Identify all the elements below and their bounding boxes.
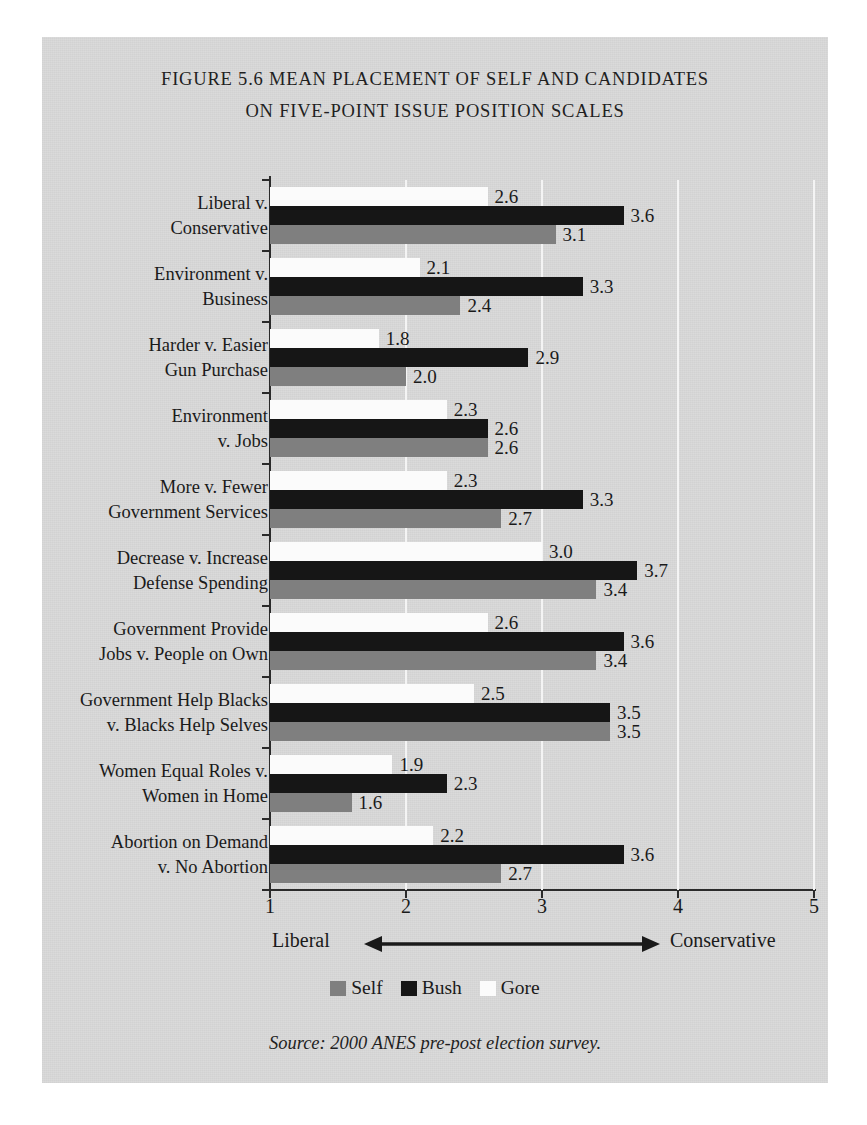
figure-source-note: Source: 2000 ANES pre-post election surv… <box>42 1033 828 1054</box>
bar-gore <box>270 187 488 206</box>
bar-group: 2.13.32.4 <box>270 251 814 322</box>
bar-group: 3.03.73.4 <box>270 535 814 606</box>
axis-anchor-conservative: Conservative <box>670 929 776 952</box>
scale-direction-row: Liberal Conservative <box>172 927 852 961</box>
bar-group: 2.63.63.4 <box>270 606 814 677</box>
bar-gore <box>270 684 474 703</box>
bar-row-gore: 2.3 <box>270 400 814 419</box>
category-label-line: Environment v. <box>154 262 268 287</box>
bar-value-label: 1.8 <box>379 328 410 350</box>
bar-self <box>270 225 556 244</box>
bar-value-label: 3.1 <box>556 224 587 246</box>
bar-row-gore: 2.6 <box>270 613 814 632</box>
bar-value-label: 3.3 <box>583 276 614 298</box>
bar-row-gore: 2.6 <box>270 187 814 206</box>
category-label: Environmentv. Jobs <box>171 404 268 454</box>
bar-row-bush: 3.3 <box>270 277 814 296</box>
bar-value-label: 2.9 <box>528 347 559 369</box>
category-label: Liberal v.Conservative <box>170 191 268 241</box>
bar-row-bush: 3.6 <box>270 632 814 651</box>
bar-group: 2.33.32.7 <box>270 464 814 535</box>
bar-gore <box>270 542 542 561</box>
bar-row-bush: 3.7 <box>270 561 814 580</box>
bar-row-gore: 1.8 <box>270 329 814 348</box>
bar-value-label: 2.4 <box>460 295 491 317</box>
bar-group: 1.92.31.6 <box>270 748 814 819</box>
bar-row-bush: 2.9 <box>270 348 814 367</box>
bar-gore <box>270 400 447 419</box>
bar-value-label: 2.6 <box>488 612 519 634</box>
category-label-line: Defense Spending <box>117 571 268 596</box>
bar-row-self: 3.5 <box>270 722 814 741</box>
bar-value-label: 2.6 <box>488 437 519 459</box>
bar-group: 1.82.92.0 <box>270 322 814 393</box>
bar-self <box>270 367 406 386</box>
x-axis-label-4: 4 <box>673 895 683 918</box>
bar-value-label: 1.9 <box>392 754 423 776</box>
bar-self <box>270 722 610 741</box>
x-axis-label-5: 5 <box>809 895 819 918</box>
bar-row-self: 3.4 <box>270 651 814 670</box>
bar-self <box>270 793 352 812</box>
bar-self <box>270 580 596 599</box>
bar-value-label: 3.6 <box>624 844 655 866</box>
bar-row-self: 2.7 <box>270 509 814 528</box>
bar-row-self: 2.7 <box>270 864 814 883</box>
figure-title-line-2: ON FIVE-POINT ISSUE POSITION SCALES <box>42 95 828 127</box>
legend-item-bush[interactable]: Bush <box>401 977 462 999</box>
bar-self <box>270 438 488 457</box>
bar-gore <box>270 613 488 632</box>
bar-bush <box>270 632 624 651</box>
bar-group: 2.63.63.1 <box>270 180 814 251</box>
category-label-line: Government Help Blacks <box>80 688 268 713</box>
bar-row-gore: 2.3 <box>270 471 814 490</box>
bar-row-self: 1.6 <box>270 793 814 812</box>
bar-group: 2.32.62.6 <box>270 393 814 464</box>
category-label-line: Harder v. Easier <box>148 333 268 358</box>
legend-label-self: Self <box>351 977 382 998</box>
bar-row-bush: 3.6 <box>270 845 814 864</box>
bar-value-label: 2.2 <box>433 825 464 847</box>
x-axis-tick-labels: 12345 <box>270 895 814 925</box>
category-label: Abortion on Demandv. No Abortion <box>111 830 268 880</box>
bar-value-label: 2.7 <box>501 508 532 530</box>
bar-row-self: 3.4 <box>270 580 814 599</box>
legend-item-gore[interactable]: Gore <box>480 977 540 999</box>
category-label-line: Government Provide <box>99 617 268 642</box>
bar-value-label: 2.1 <box>420 257 451 279</box>
bar-gore <box>270 826 433 845</box>
legend-item-self[interactable]: Self <box>330 977 382 999</box>
bar-value-label: 3.5 <box>610 721 641 743</box>
bar-value-label: 3.0 <box>542 541 573 563</box>
bar-bush <box>270 206 624 225</box>
bar-gore <box>270 471 447 490</box>
category-label: Environment v.Business <box>154 262 268 312</box>
bar-row-bush: 2.3 <box>270 774 814 793</box>
bar-bush <box>270 774 447 793</box>
bar-bush <box>270 419 488 438</box>
bar-self <box>270 864 501 883</box>
bar-group: 2.23.62.7 <box>270 819 814 890</box>
category-label-line: Environment <box>171 404 268 429</box>
x-axis-label-2: 2 <box>401 895 411 918</box>
category-label-line: Gun Purchase <box>148 358 268 383</box>
x-axis-label-1: 1 <box>265 895 275 918</box>
bar-self <box>270 509 501 528</box>
bar-row-bush: 3.6 <box>270 206 814 225</box>
category-label-line: Liberal v. <box>170 191 268 216</box>
bar-row-gore: 2.2 <box>270 826 814 845</box>
figure-panel: FIGURE 5.6 MEAN PLACEMENT OF SELF AND CA… <box>42 37 828 1083</box>
bar-row-gore: 2.1 <box>270 258 814 277</box>
bar-bush <box>270 845 624 864</box>
category-label-line: Women in Home <box>99 784 268 809</box>
bar-bush <box>270 703 610 722</box>
category-label-line: Business <box>154 287 268 312</box>
bar-value-label: 3.6 <box>624 631 655 653</box>
bar-value-label: 3.4 <box>596 579 627 601</box>
bar-row-self: 2.4 <box>270 296 814 315</box>
legend-swatch-gore <box>480 981 496 996</box>
bar-bush <box>270 277 583 296</box>
bar-gore <box>270 329 379 348</box>
category-label: Government Help Blacksv. Blacks Help Sel… <box>80 688 268 738</box>
plot-area: 2.63.63.12.13.32.41.82.92.02.32.62.62.33… <box>270 180 814 890</box>
